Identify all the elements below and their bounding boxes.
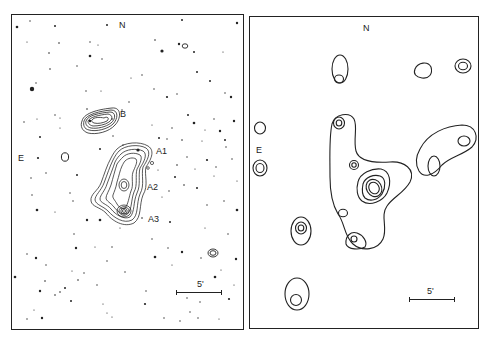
source-a1-label: A1 xyxy=(156,147,167,156)
ring-source-top xyxy=(182,44,188,48)
contour-map xyxy=(250,17,480,330)
ring-source-bottom-right xyxy=(208,249,218,257)
scale-bar xyxy=(410,299,454,300)
scale-bar-label: 5' xyxy=(197,280,204,289)
contours-source-b xyxy=(81,108,119,134)
contour-source-lower-left xyxy=(291,217,311,245)
east-label: E xyxy=(256,146,262,155)
contour-source-bottom-left xyxy=(285,278,309,310)
contour-source-right xyxy=(416,125,476,176)
ring-sources-near-a1 xyxy=(147,161,154,169)
contour-source-top-right-a xyxy=(414,63,431,78)
right-panel-contour-map: N E 5' xyxy=(249,16,479,329)
east-label: E xyxy=(18,154,24,163)
north-label: N xyxy=(119,21,126,30)
contour-source-left-upper xyxy=(255,122,266,134)
star-field xyxy=(14,19,239,322)
scale-bar-label: 5' xyxy=(427,287,434,296)
source-a3-label: A3 xyxy=(148,215,159,224)
ring-source-east xyxy=(61,153,68,161)
left-panel-optical-overlay: N E B A1 A2 A3 5' xyxy=(11,14,244,330)
source-a2-label: A2 xyxy=(147,183,158,192)
contour-source-top-center xyxy=(332,55,348,83)
north-label: N xyxy=(363,24,370,33)
contours-source-a xyxy=(91,143,152,225)
contour-source-top-right-b xyxy=(455,59,471,73)
star-field-with-contours xyxy=(12,15,245,331)
scale-bar xyxy=(177,292,221,293)
source-b-label: B xyxy=(120,110,126,119)
contour-source-left-lower xyxy=(253,160,267,176)
contour-source-central-complex xyxy=(330,115,412,249)
